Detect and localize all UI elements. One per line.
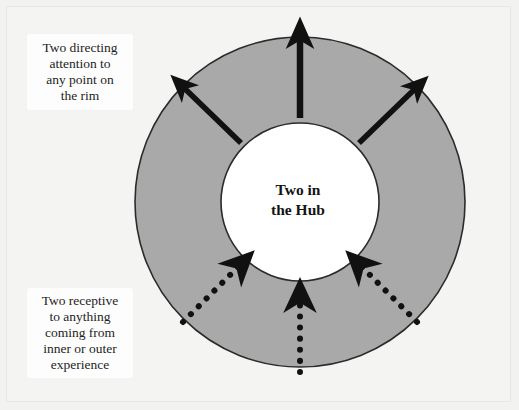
caption-line: inner or outer xyxy=(42,341,119,357)
caption-receptive-text: Two receptive to anything coming from in… xyxy=(42,293,119,373)
hub-label-line2: the Hub xyxy=(271,201,325,218)
caption-line: coming from xyxy=(42,325,119,341)
hub-label: Two in the Hub xyxy=(228,180,368,220)
hub-label-line1: Two in xyxy=(276,181,321,198)
diagram-page: Two in the Hub Two directing attention t… xyxy=(0,0,519,410)
caption-line: to anything xyxy=(42,309,119,325)
caption-line: experience xyxy=(42,357,119,373)
caption-line: any point on xyxy=(42,72,117,88)
caption-line: Two directing xyxy=(42,40,117,56)
caption-directing-attention-text: Two directing attention to any point on … xyxy=(42,40,117,104)
caption-line: the rim xyxy=(42,88,117,104)
caption-directing-attention: Two directing attention to any point on … xyxy=(27,34,133,110)
caption-line: Two receptive xyxy=(42,293,119,309)
caption-line: attention to xyxy=(42,56,117,72)
caption-receptive: Two receptive to anything coming from in… xyxy=(27,288,133,378)
